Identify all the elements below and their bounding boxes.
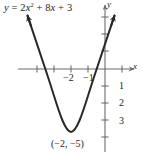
equation-var-linear: x: [51, 2, 56, 13]
vertex-coordinate-label: (−2, −5): [51, 139, 84, 149]
equation-exponent: 2: [30, 1, 33, 8]
x-axis-label: x: [133, 62, 137, 71]
y-axis: [102, 5, 109, 152]
y-axis-label: y: [107, 0, 111, 9]
x-tick-label-neg-2: −2: [63, 73, 74, 83]
equation-plus-first: +: [36, 2, 42, 13]
plot-area: [0, 0, 151, 156]
x-tick-label-neg-1: −1: [83, 73, 94, 83]
y-tick-label-3: 3: [119, 116, 124, 126]
equation-plus-second: +: [58, 2, 64, 13]
equation-label: y = 2x2 + 8x + 3: [4, 3, 72, 14]
x-axis: [18, 66, 134, 73]
parabola-figure: y = 2x2 + 8x + 3 y x −2 −1 1 2 3 (−2, −5…: [0, 0, 151, 156]
equation-constant-c: 3: [67, 2, 72, 13]
y-tick-label-1: 1: [119, 81, 124, 91]
y-tick-label-2: 2: [119, 98, 124, 108]
equation-equals: =: [12, 2, 18, 13]
equation-lhs: y: [4, 2, 9, 13]
